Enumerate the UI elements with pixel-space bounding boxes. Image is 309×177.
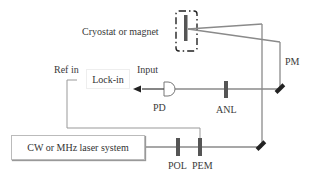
pem-icon [198, 138, 202, 156]
cryostat-label: Cryostat or magnet [82, 26, 159, 38]
lockin-label: Lock-in [92, 74, 124, 85]
laser-label: CW or MHz laser system [27, 142, 128, 153]
pem-label: PEM [192, 160, 213, 172]
photodiode-icon [164, 82, 175, 96]
pm-label: PM [285, 56, 299, 68]
laser-box: CW or MHz laser system [11, 135, 145, 160]
sample-icon [184, 15, 188, 41]
input-label: Input [137, 64, 158, 76]
ref-in-label: Ref in [54, 64, 79, 76]
pol-label: POL [168, 160, 187, 172]
arrow-to-lockin-icon [133, 86, 141, 93]
beam-incident [188, 24, 262, 29]
anl-label: ANL [216, 104, 237, 116]
analyzer-icon [224, 81, 228, 98]
mirror-lower-icon [256, 140, 267, 151]
lockin-box: Lock-in [86, 69, 130, 89]
pd-label: PD [153, 102, 166, 114]
polarizer-icon [176, 138, 180, 156]
beam-reflected [188, 29, 280, 42]
